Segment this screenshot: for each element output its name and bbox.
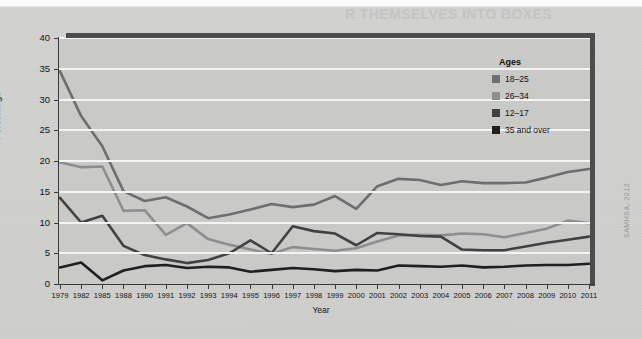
y-tick-label-15: 15 bbox=[22, 186, 50, 197]
source-credit: SAMHSA, 2012 bbox=[623, 183, 630, 238]
y-tick-label-5: 5 bbox=[22, 247, 50, 258]
x-tick-label-1982: 1982 bbox=[73, 291, 90, 300]
legend-item-35-and-over[interactable]: 35 and over bbox=[492, 122, 592, 137]
x-tick-label-2006: 2006 bbox=[475, 291, 492, 300]
y-tick-20 bbox=[54, 161, 58, 162]
x-tick-2005 bbox=[462, 285, 463, 289]
x-tick-label-2004: 2004 bbox=[432, 291, 449, 300]
x-tick-label-1988: 1988 bbox=[115, 291, 132, 300]
plot-frame-top bbox=[66, 33, 595, 38]
gridline-20 bbox=[59, 160, 594, 162]
legend-swatch-icon bbox=[492, 126, 500, 134]
x-tick-label-1995: 1995 bbox=[242, 291, 259, 300]
y-tick-label-40: 40 bbox=[22, 32, 50, 43]
y-tick-label-10: 10 bbox=[22, 217, 50, 228]
line-chart-figure: 0510152025303540 19791982198519881990199… bbox=[0, 0, 642, 339]
y-tick-label-25: 25 bbox=[22, 124, 50, 135]
y-axis-line bbox=[58, 37, 59, 285]
x-tick-2002 bbox=[399, 285, 400, 289]
legend-items: 18–2526–3412–1735 and over bbox=[492, 71, 592, 137]
x-tick-1982 bbox=[81, 285, 82, 289]
x-tick-1999 bbox=[335, 285, 336, 289]
y-tick-15 bbox=[54, 192, 58, 193]
legend-item-label: 12–17 bbox=[505, 108, 529, 118]
x-tick-1992 bbox=[187, 285, 188, 289]
x-tick-1990 bbox=[145, 285, 146, 289]
legend-swatch-icon bbox=[492, 109, 500, 117]
x-tick-1995 bbox=[250, 285, 251, 289]
y-tick-30 bbox=[54, 100, 58, 101]
x-axis-line bbox=[58, 284, 595, 285]
x-tick-label-2008: 2008 bbox=[517, 291, 534, 300]
x-tick-label-1997: 1997 bbox=[284, 291, 301, 300]
x-tick-1985 bbox=[102, 285, 103, 289]
y-tick-25 bbox=[54, 130, 58, 131]
legend-item-18–25[interactable]: 18–25 bbox=[492, 71, 592, 86]
x-tick-label-2002: 2002 bbox=[390, 291, 407, 300]
series-line-35-and-over bbox=[60, 262, 589, 280]
x-tick-label-1993: 1993 bbox=[200, 291, 217, 300]
x-tick-1988 bbox=[123, 285, 124, 289]
x-axis-title: Year bbox=[0, 305, 642, 315]
x-tick-label-2005: 2005 bbox=[454, 291, 471, 300]
legend-item-label: 35 and over bbox=[505, 125, 550, 135]
x-tick-label-1994: 1994 bbox=[221, 291, 238, 300]
x-tick-label-2000: 2000 bbox=[348, 291, 365, 300]
legend-item-label: 26–34 bbox=[505, 91, 529, 101]
gridline-5 bbox=[59, 252, 594, 254]
x-tick-2001 bbox=[377, 285, 378, 289]
x-tick-label-1998: 1998 bbox=[305, 291, 322, 300]
x-tick-2009 bbox=[547, 285, 548, 289]
x-tick-2003 bbox=[420, 285, 421, 289]
x-tick-label-1991: 1991 bbox=[157, 291, 174, 300]
x-tick-1979 bbox=[60, 285, 61, 289]
x-tick-label-2003: 2003 bbox=[411, 291, 428, 300]
legend-swatch-icon bbox=[492, 92, 500, 100]
legend-item-26–34[interactable]: 26–34 bbox=[492, 88, 592, 103]
legend-swatch-icon bbox=[492, 75, 500, 83]
x-tick-label-2007: 2007 bbox=[496, 291, 513, 300]
x-tick-label-2009: 2009 bbox=[538, 291, 555, 300]
gridline-15 bbox=[59, 191, 594, 193]
x-tick-label-1999: 1999 bbox=[327, 291, 344, 300]
x-tick-2010 bbox=[568, 285, 569, 289]
x-tick-2004 bbox=[441, 285, 442, 289]
x-tick-2007 bbox=[504, 285, 505, 289]
x-tick-label-2010: 2010 bbox=[559, 291, 576, 300]
legend-item-label: 18–25 bbox=[505, 74, 529, 84]
x-tick-1994 bbox=[229, 285, 230, 289]
x-tick-label-1985: 1985 bbox=[94, 291, 111, 300]
series-line-26–34 bbox=[60, 162, 589, 254]
x-tick-2008 bbox=[526, 285, 527, 289]
y-axis-title: Percentage bbox=[0, 91, 2, 140]
x-tick-label-1990: 1990 bbox=[136, 291, 153, 300]
legend: Ages 18–2526–3412–1735 and over bbox=[492, 57, 592, 139]
x-tick-1998 bbox=[314, 285, 315, 289]
y-tick-35 bbox=[54, 69, 58, 70]
y-tick-label-0: 0 bbox=[22, 278, 50, 289]
x-tick-2006 bbox=[483, 285, 484, 289]
x-tick-1993 bbox=[208, 285, 209, 289]
gridline-10 bbox=[59, 222, 594, 224]
x-tick-label-2011: 2011 bbox=[581, 291, 597, 300]
x-tick-label-1979: 1979 bbox=[52, 291, 69, 300]
x-tick-2000 bbox=[356, 285, 357, 289]
y-tick-5 bbox=[54, 253, 58, 254]
x-tick-label-1996: 1996 bbox=[263, 291, 280, 300]
x-tick-label-2001: 2001 bbox=[369, 291, 386, 300]
legend-title: Ages bbox=[499, 57, 592, 67]
y-tick-10 bbox=[54, 223, 58, 224]
x-tick-1991 bbox=[166, 285, 167, 289]
y-tick-label-30: 30 bbox=[22, 94, 50, 105]
y-tick-40 bbox=[54, 38, 58, 39]
y-tick-label-20: 20 bbox=[22, 155, 50, 166]
x-tick-2011 bbox=[589, 285, 590, 289]
legend-item-12–17[interactable]: 12–17 bbox=[492, 105, 592, 120]
x-tick-1996 bbox=[272, 285, 273, 289]
y-tick-label-35: 35 bbox=[22, 63, 50, 74]
x-tick-1997 bbox=[293, 285, 294, 289]
x-tick-label-1992: 1992 bbox=[179, 291, 196, 300]
y-tick-0 bbox=[54, 284, 58, 285]
